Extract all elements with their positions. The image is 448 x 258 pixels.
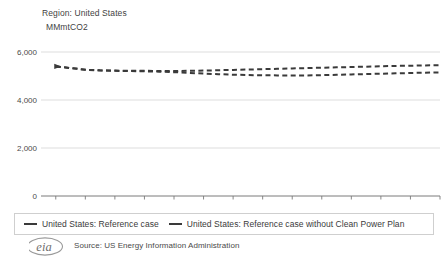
data-series-lines	[56, 65, 440, 75]
emissions-chart: Region: United States MMmtCO2 02,0004,00…	[0, 0, 448, 258]
series-line-1	[56, 65, 440, 71]
start-marker-glyph	[54, 64, 61, 69]
source-text: Source: US Energy Information Administra…	[74, 241, 239, 250]
legend-item-reference-case[interactable]: United States: Reference case	[24, 219, 159, 229]
series-start-marker	[54, 64, 61, 69]
legend-label: United States: Reference case without Cl…	[187, 219, 405, 229]
y-tick-label: 0	[33, 192, 38, 201]
x-tick-label: 2014	[47, 201, 64, 202]
gridlines	[41, 52, 440, 148]
eia-logo-icon: eia	[29, 237, 65, 256]
legend-swatch-icon	[24, 223, 37, 226]
x-axis-ticks	[56, 196, 440, 200]
svg-text:eia: eia	[36, 240, 51, 254]
x-tick-label: 2034	[343, 201, 360, 202]
x-tick-label: 2026	[225, 201, 242, 202]
x-tick-label: 2028	[254, 201, 271, 202]
plot-svg: 02,0004,0006,000 20142016201820202022202…	[0, 36, 448, 202]
x-tick-label: 2036	[373, 201, 390, 202]
x-tick-label: 2030	[284, 201, 301, 202]
y-tick-label: 2,000	[17, 144, 38, 153]
x-tick-label: 2038	[402, 201, 419, 202]
legend-swatch-icon	[169, 223, 182, 226]
legend-label: United States: Reference case	[42, 219, 159, 229]
y-axis-tick-labels: 02,0004,0006,000	[17, 48, 38, 201]
region-label: Region: United States	[42, 8, 127, 18]
x-tick-label: 2020	[136, 201, 153, 202]
chart-legend: United States: Reference case United Sta…	[14, 213, 434, 235]
y-tick-label: 4,000	[17, 96, 38, 105]
series-line-0	[56, 66, 440, 75]
x-tick-label: 2018	[107, 201, 124, 202]
plot-area: 02,0004,0006,000 20142016201820202022202…	[0, 36, 448, 202]
x-tick-label: 2024	[195, 201, 212, 202]
chart-footer: eia Source: US Energy Information Admini…	[0, 236, 448, 258]
x-tick-label: 2032	[313, 201, 330, 202]
x-tick-label: 2022	[166, 201, 183, 202]
legend-item-reference-case-without-cpp[interactable]: United States: Reference case without Cl…	[169, 219, 405, 229]
x-tick-label: 2040	[432, 201, 448, 202]
x-axis-tick-labels: 2014201620182020202220242026202820302032…	[47, 201, 448, 202]
y-axis-unit-label: MMmtCO2	[46, 22, 88, 32]
x-tick-label: 2016	[77, 201, 94, 202]
y-tick-label: 6,000	[17, 48, 38, 57]
